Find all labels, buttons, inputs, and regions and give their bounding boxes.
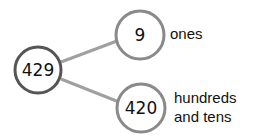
connector-whole-to-ones — [61, 41, 117, 62]
whole-circle: 429 — [15, 47, 61, 93]
part-hundreds-tens-label-line1: hundreds — [174, 89, 237, 106]
part-ones-label: ones — [170, 25, 203, 42]
part-hundreds-tens-value: 420 — [125, 98, 157, 118]
number-bond-diagram: 429 9 ones 420 hundreds and tens — [0, 0, 258, 139]
whole-value: 429 — [22, 60, 54, 80]
part-ones-value: 9 — [135, 25, 146, 45]
connector-whole-to-hundreds-tens — [61, 79, 119, 102]
part-circle-hundreds-tens: 420 — [117, 84, 165, 132]
part-hundreds-tens-label-line2: and tens — [174, 108, 232, 125]
part-circle-ones: 9 — [116, 11, 164, 59]
